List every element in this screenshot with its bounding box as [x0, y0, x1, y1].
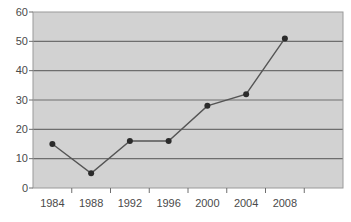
- x-axis-tick-label: 1988: [79, 198, 103, 209]
- x-axis-tick-label: 1984: [40, 198, 64, 209]
- line-chart: 0102030405060 19841988199219962000200420…: [0, 0, 351, 222]
- x-axis-tick-label: 1992: [118, 198, 142, 209]
- x-axis-tick-label: 2000: [195, 198, 219, 209]
- x-axis-tick-label: 1996: [156, 198, 180, 209]
- x-axis-tick-label: 2004: [234, 198, 258, 209]
- x-axis-tick-label: 2008: [273, 198, 297, 209]
- x-axis-label-group: 1984198819921996200020042008: [0, 0, 351, 222]
